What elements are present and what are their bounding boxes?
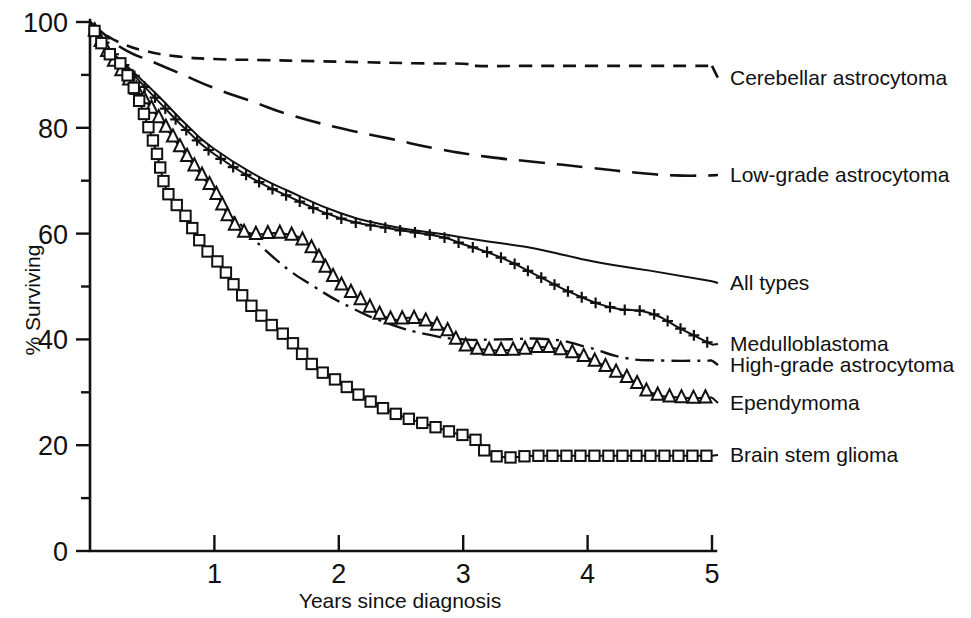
plot-axes: 020406080100 12345	[23, 8, 720, 589]
marker-square	[547, 451, 557, 461]
marker-square	[404, 414, 414, 424]
marker-triangle	[699, 390, 711, 402]
x-tick-label-4: 4	[580, 559, 595, 589]
y-tick-label-100: 100	[23, 8, 68, 38]
marker-plus	[702, 337, 713, 348]
marker-plus	[496, 252, 507, 263]
marker-triangle	[507, 342, 519, 354]
marker-square	[115, 58, 125, 68]
axis-lines	[90, 20, 716, 551]
marker-square	[519, 451, 529, 461]
marker-plus	[634, 305, 645, 316]
marker-plus	[410, 227, 421, 238]
curve-line	[90, 22, 712, 66]
marker-square	[603, 451, 613, 461]
series-brain-stem-glioma	[89, 22, 712, 463]
marker-square	[256, 310, 266, 320]
marker-group	[90, 25, 713, 348]
marker-triangle	[687, 391, 699, 403]
marker-square	[645, 451, 655, 461]
legend-label-all-types: All types	[730, 271, 809, 294]
marker-square	[470, 435, 480, 445]
marker-plus	[509, 258, 520, 269]
marker-plus	[619, 304, 630, 315]
marker-square	[180, 211, 190, 221]
marker-plus	[649, 309, 660, 320]
x-tick-label-2: 2	[331, 559, 346, 589]
marker-plus	[590, 298, 601, 309]
legend-leader-line	[712, 455, 718, 456]
marker-plus	[563, 286, 574, 297]
marker-square	[187, 223, 197, 233]
marker-square	[342, 382, 352, 392]
marker-square	[417, 418, 427, 428]
marker-square	[237, 290, 247, 300]
marker-square	[561, 451, 571, 461]
legend-label-ependymoma: Ependymoma	[730, 391, 860, 414]
marker-square	[307, 359, 317, 369]
chart-legend: Cerebellar astrocytomaLow-grade astrocyt…	[712, 66, 954, 466]
chart-page: 020406080100 12345 Cerebellar astrocytom…	[0, 0, 971, 618]
marker-square	[228, 279, 238, 289]
marker-triangle	[531, 340, 543, 352]
marker-square	[96, 38, 106, 48]
series-cerebellar-astrocytoma	[90, 22, 712, 66]
curve-line	[90, 22, 712, 345]
marker-square	[163, 189, 173, 199]
marker-triangle	[543, 340, 555, 352]
x-tick-label-1: 1	[207, 559, 222, 589]
marker-square	[589, 451, 599, 461]
marker-square	[278, 328, 288, 338]
marker-square	[129, 83, 139, 93]
marker-square	[172, 200, 182, 210]
marker-square	[143, 122, 153, 132]
marker-plus	[675, 323, 686, 334]
marker-square	[491, 451, 501, 461]
curve-line	[90, 22, 712, 458]
marker-square	[444, 426, 454, 436]
x-tick-label-3: 3	[456, 559, 471, 589]
marker-plus	[482, 247, 493, 258]
marker-square	[297, 349, 307, 359]
marker-square	[378, 403, 388, 413]
marker-square	[575, 451, 585, 461]
marker-square	[318, 367, 328, 377]
marker-triangle	[274, 226, 286, 238]
marker-triangle	[262, 226, 274, 238]
marker-triangle	[483, 343, 495, 355]
marker-square	[533, 451, 543, 461]
marker-square	[221, 267, 231, 277]
series-medulloblastoma	[90, 22, 713, 348]
legend-leader-line	[712, 344, 718, 345]
marker-plus	[605, 302, 616, 313]
legend-leader-line	[712, 361, 718, 365]
x-axis-major-ticks	[214, 535, 712, 551]
marker-square	[89, 26, 99, 36]
marker-plus	[467, 242, 478, 253]
marker-plus	[549, 279, 560, 290]
marker-square	[673, 451, 683, 461]
marker-group	[89, 26, 711, 463]
legend-leader-line	[712, 281, 718, 283]
marker-plus	[536, 272, 547, 283]
marker-square	[288, 338, 298, 348]
marker-plus	[688, 330, 699, 341]
marker-square	[246, 301, 256, 311]
marker-plus	[576, 292, 587, 303]
curve-line	[90, 22, 712, 361]
marker-square	[701, 451, 711, 461]
x-axis-title: Years since diagnosis	[299, 589, 501, 612]
data-series-layer	[89, 22, 713, 463]
marker-square	[267, 320, 277, 330]
marker-triangle	[495, 343, 507, 355]
marker-square	[631, 451, 641, 461]
legend-label-cerebellar-astrocytoma: Cerebellar astrocytoma	[730, 66, 947, 89]
marker-square	[687, 451, 697, 461]
legend-label-low-grade-astrocytoma: Low-grade astrocytoma	[730, 163, 950, 186]
marker-square	[617, 451, 627, 461]
legend-label-high-grade-astrocytoma: High-grade astrocytoma	[730, 353, 954, 376]
marker-square	[152, 149, 162, 159]
y-axis-title: % Surviving	[21, 245, 44, 356]
marker-square	[105, 49, 115, 59]
marker-plus	[662, 316, 673, 327]
